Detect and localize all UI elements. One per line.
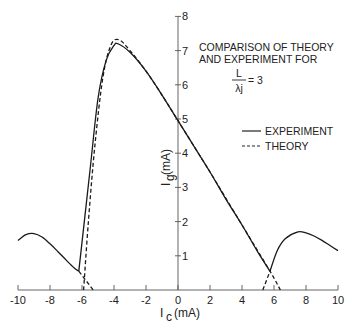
x-tick-label: -8 xyxy=(45,294,55,306)
annotation-line-1: COMPARISON OF THEORY xyxy=(199,41,334,53)
y-axis-label-main: I xyxy=(159,183,173,186)
x-tick-label: -10 xyxy=(10,294,26,306)
x-axis-label: I c (mA) xyxy=(160,306,200,324)
annotation-fraction-denominator: λj xyxy=(235,82,243,94)
experiment-curve xyxy=(18,233,79,271)
x-tick-label: 8 xyxy=(303,294,309,306)
y-tick-label: 5 xyxy=(182,113,188,125)
x-tick-label: -6 xyxy=(77,294,87,306)
legend-experiment-label: EXPERIMENT xyxy=(265,125,334,137)
y-tick-label: 3 xyxy=(182,181,188,193)
y-tick-label: 7 xyxy=(182,45,188,57)
x-tick-label: -4 xyxy=(109,294,119,306)
annotation-fraction-numerator: L xyxy=(236,67,242,79)
experiment-curve xyxy=(270,232,338,272)
y-tick-label: 2 xyxy=(182,216,188,228)
y-axis-label-unit: (mA) xyxy=(159,149,173,175)
x-tick-label: 4 xyxy=(239,294,245,306)
annotation-equals: = 3 xyxy=(248,74,263,86)
x-axis-label-sub: c xyxy=(166,310,172,324)
y-tick-label: 6 xyxy=(182,79,188,91)
annotation-line-2: AND EXPERIMENT FOR xyxy=(199,53,318,65)
x-tick-label: -2 xyxy=(141,294,151,306)
theory-curve xyxy=(79,271,93,290)
y-tick-label: 8 xyxy=(182,10,188,22)
x-axis-label-main: I xyxy=(160,306,163,320)
chart-canvas: -10-8-6-4-2024681012345678 COMPARISON OF… xyxy=(0,0,355,329)
x-tick-label: 10 xyxy=(332,294,344,306)
x-axis-label-unit: (mA) xyxy=(174,306,200,320)
y-tick-label: 4 xyxy=(182,147,188,159)
y-axis-label: I g (mA) xyxy=(159,149,177,186)
legend-theory-label: THEORY xyxy=(265,140,309,152)
legend: EXPERIMENT THEORY xyxy=(242,125,334,152)
x-tick-label: 2 xyxy=(207,294,213,306)
x-tick-label: 6 xyxy=(271,294,277,306)
theory-curve xyxy=(263,271,270,290)
x-tick-label: 0 xyxy=(175,294,181,306)
y-tick-label: 1 xyxy=(182,250,188,262)
annotation: COMPARISON OF THEORY AND EXPERIMENT FOR … xyxy=(199,41,334,94)
